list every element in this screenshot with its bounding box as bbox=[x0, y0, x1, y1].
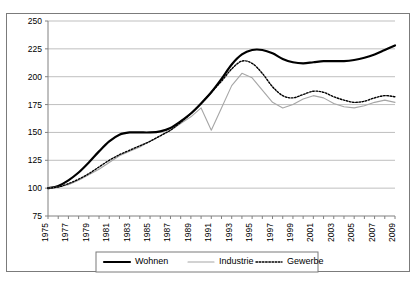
line-chart: 75100125150175200225250 1975197719791981… bbox=[0, 0, 417, 285]
x-tick-label: 1989 bbox=[183, 223, 193, 242]
x-tick-label: 1983 bbox=[122, 223, 132, 242]
x-tick-label: 1993 bbox=[224, 223, 234, 242]
x-tick-label: 2005 bbox=[346, 223, 356, 242]
x-tick-label: 2001 bbox=[305, 223, 315, 242]
y-tick-label: 200 bbox=[28, 72, 42, 82]
y-tick-label: 125 bbox=[28, 155, 42, 165]
y-tick-label: 75 bbox=[33, 211, 43, 221]
x-tick-label: 1985 bbox=[142, 223, 152, 242]
x-tick-label: 1979 bbox=[81, 223, 91, 242]
x-tick-label: 1995 bbox=[244, 223, 254, 242]
x-tick-label: 1981 bbox=[101, 223, 111, 242]
x-tick-label: 1977 bbox=[60, 223, 70, 242]
legend-label-industrie: Industrie bbox=[219, 256, 254, 266]
x-tick-label: 1997 bbox=[265, 223, 275, 242]
y-tick-label: 250 bbox=[28, 16, 42, 26]
x-tick-label: 1975 bbox=[40, 223, 50, 242]
chart-figure: 75100125150175200225250 1975197719791981… bbox=[0, 0, 417, 285]
x-tick-label: 2009 bbox=[387, 223, 397, 242]
plot-background bbox=[48, 21, 395, 216]
x-tick-label: 1991 bbox=[203, 223, 213, 242]
y-tick-label: 100 bbox=[28, 183, 42, 193]
x-tick-label: 2007 bbox=[367, 223, 377, 242]
x-tick-label: 1999 bbox=[285, 223, 295, 242]
x-tick-label: 1987 bbox=[162, 223, 172, 242]
y-tick-label: 150 bbox=[28, 127, 42, 137]
y-tick-label: 225 bbox=[28, 44, 42, 54]
legend-label-wohnen: Wohnen bbox=[135, 256, 168, 266]
x-axis-tick-labels: 1975197719791981198319851987198919911993… bbox=[40, 223, 397, 242]
y-tick-label: 175 bbox=[28, 100, 42, 110]
y-axis-tick-labels: 75100125150175200225250 bbox=[28, 16, 42, 221]
x-tick-label: 2003 bbox=[326, 223, 336, 242]
legend-label-gewerbe: Gewerbe bbox=[287, 256, 324, 266]
